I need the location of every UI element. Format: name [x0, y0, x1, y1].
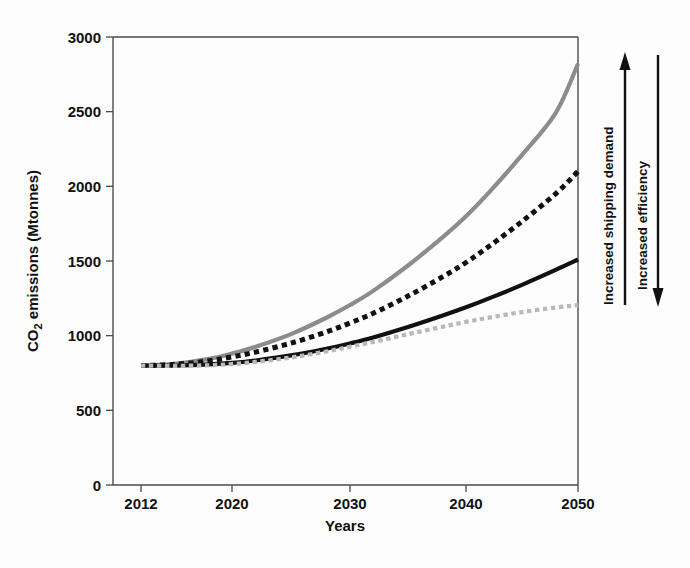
x-tick-label: 2030 [333, 495, 366, 512]
co2-emissions-projection-chart: 050010001500200025003000 201220202030204… [0, 0, 690, 568]
y-axis-title-pre: CO [24, 329, 41, 352]
x-tick-label: 2020 [215, 495, 248, 512]
x-axis-ticks: 20122020203020402050 [124, 485, 594, 512]
increased-shipping-demand-label: Increased shipping demand [601, 126, 616, 305]
x-tick-label: 2050 [561, 495, 594, 512]
x-tick-label: 2040 [449, 495, 482, 512]
y-axis-ticks: 050010001500200025003000 [68, 29, 113, 494]
series-line-0 [141, 64, 578, 366]
increased-efficiency-arrowhead-down [653, 288, 664, 307]
x-tick-label: 2012 [124, 495, 157, 512]
y-tick-label: 1500 [68, 253, 101, 270]
annotations-group: Increased shipping demand Increased effi… [601, 52, 664, 307]
y-tick-label: 0 [93, 477, 101, 494]
series-line-1 [141, 171, 578, 365]
y-tick-label: 2000 [68, 178, 101, 195]
increased-efficiency-label: Increased efficiency [635, 160, 650, 290]
series-line-3 [141, 305, 578, 366]
figure-container: 050010001500200025003000 201220202030204… [0, 0, 690, 568]
y-tick-label: 1000 [68, 327, 101, 344]
y-axis-title-post: emissions (Mtonnes) [24, 170, 41, 323]
y-tick-label: 3000 [68, 29, 101, 46]
increased-shipping-demand-annotation: Increased shipping demand [601, 52, 631, 305]
axes [113, 37, 578, 485]
increased-shipping-demand-arrowhead-up [620, 52, 631, 70]
svg-text:CO2 emissions (Mtonnes): CO2 emissions (Mtonnes) [24, 170, 44, 352]
y-axis-title: CO2 emissions (Mtonnes) [24, 170, 44, 352]
y-tick-label: 500 [76, 402, 101, 419]
y-tick-label: 2500 [68, 103, 101, 120]
data-series-group [141, 64, 578, 366]
x-axis-title: Years [325, 517, 365, 534]
increased-efficiency-annotation: Increased efficiency [635, 55, 664, 307]
